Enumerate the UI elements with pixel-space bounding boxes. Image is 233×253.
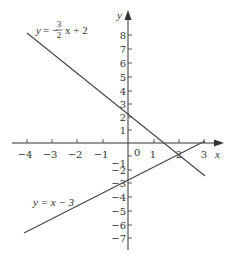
y-axis-label: y (116, 9, 122, 21)
y-tick-label: −4 (111, 192, 126, 203)
x-axis-arrow-icon (214, 140, 224, 147)
y-tick-label: −7 (111, 233, 126, 244)
line1-label-rest: x + 2 (65, 24, 88, 36)
origin-label: 0 (134, 147, 140, 158)
y-tick-labels: 1 2 3 4 5 6 7 8 −1 −2 −3 −4 −5 −6 −7 (111, 30, 126, 244)
y-ticks (128, 35, 132, 238)
y-tick-label: 2 (120, 112, 126, 123)
line1-label-denominator: 2 (57, 30, 62, 40)
y-tick-label: 6 (120, 58, 126, 69)
coordinate-plane: −4 −3 −2 −1 1 2 3 0 x y 1 2 3 4 5 6 7 8 … (0, 0, 233, 253)
y-tick-label: 1 (120, 125, 126, 136)
y-tick-label: 7 (120, 44, 126, 55)
y-tick-label: 8 (120, 30, 126, 41)
y-tick-label: 5 (120, 72, 126, 83)
y-tick-label: −6 (111, 220, 126, 231)
x-ticks (27, 139, 204, 143)
y-tick-label: 4 (120, 86, 126, 97)
line1-equation-label: y = − 3 2 x + 2 (35, 19, 88, 40)
line1-label-numerator: 3 (57, 19, 62, 29)
y-axis-arrow-icon (125, 10, 132, 20)
x-tick-label: −4 (18, 149, 33, 160)
x-tick-label: 3 (201, 149, 207, 160)
y-tick-label: −2 (111, 165, 126, 176)
line2-equation-label: y = x − 3 (32, 196, 75, 208)
x-tick-label: 1 (150, 149, 156, 160)
line1-label-y: y (35, 24, 41, 36)
x-tick-label: −2 (68, 149, 83, 160)
x-tick-label: −3 (43, 149, 58, 160)
y-tick-label: −5 (111, 206, 126, 217)
x-axis-label: x (214, 148, 220, 160)
x-tick-label: −1 (94, 149, 109, 160)
